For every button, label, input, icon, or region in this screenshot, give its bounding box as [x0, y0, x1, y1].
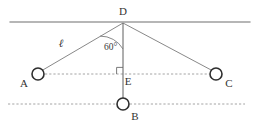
- label-e: E: [125, 75, 132, 87]
- bob-circle-a[interactable]: [32, 68, 44, 80]
- label-b: B: [131, 110, 138, 122]
- geometry-diagram-canvas: D A C B E ℓ 60°: [0, 0, 257, 125]
- label-string-length: ℓ: [59, 37, 64, 49]
- label-angle-60: 60°: [104, 42, 118, 52]
- string-segment-dc: [123, 23, 212, 70]
- label-d: D: [119, 5, 127, 17]
- bob-circle-b[interactable]: [117, 98, 129, 110]
- bob-circle-c[interactable]: [210, 68, 222, 80]
- label-a: A: [20, 77, 28, 89]
- label-c: C: [225, 77, 232, 89]
- right-angle-marker-e: [117, 67, 123, 74]
- geometry-figure: D A C B E ℓ 60°: [0, 0, 257, 125]
